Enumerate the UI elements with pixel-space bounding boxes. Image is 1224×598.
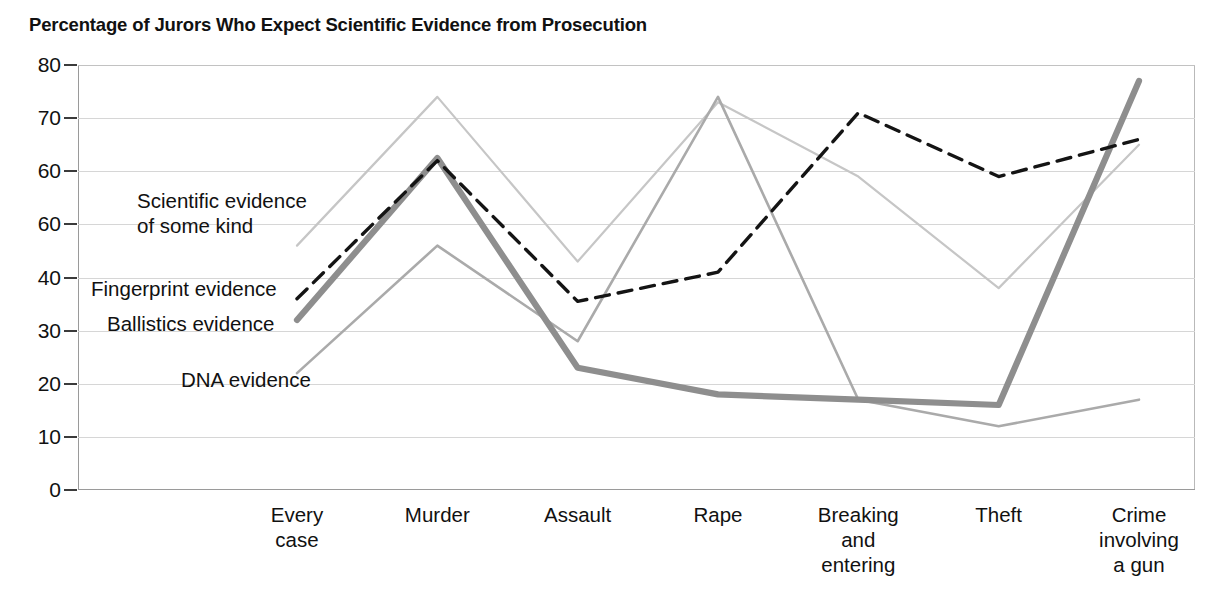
- x-axis-tick-label-line: Rape: [643, 502, 793, 527]
- x-axis-tick-label-line: entering: [783, 552, 933, 577]
- x-axis-tick-label-line: Every: [222, 502, 372, 527]
- x-axis-tick-label: Everycase: [222, 502, 372, 552]
- y-axis-tick-label: 70: [15, 106, 61, 130]
- x-axis-tick-label: Murder: [362, 502, 512, 527]
- gridline: [78, 118, 1195, 119]
- x-axis-tick-label: Assault: [503, 502, 653, 527]
- y-axis-tick-label: 60: [15, 159, 61, 183]
- x-axis-tick-label-line: Breaking: [783, 502, 933, 527]
- x-axis-tick-label: Breakingandentering: [783, 502, 933, 577]
- gridline: [78, 171, 1195, 172]
- x-axis-tick-label-line: Assault: [503, 502, 653, 527]
- y-axis-tick-label: 60: [15, 212, 61, 236]
- y-axis-tick-mark: [64, 489, 77, 491]
- y-axis-tick-mark: [64, 117, 77, 119]
- x-axis-tick-label-line: a gun: [1064, 552, 1214, 577]
- series-label-line: Ballistics evidence: [107, 311, 275, 336]
- chart-container: Percentage of Jurors Who Expect Scientif…: [0, 0, 1224, 598]
- x-axis-tick-label: Rape: [643, 502, 793, 527]
- y-axis-tick-mark: [64, 170, 77, 172]
- gridline: [78, 437, 1195, 438]
- y-axis-tick-label: 0: [15, 478, 61, 502]
- series-label-line: Fingerprint evidence: [91, 276, 277, 301]
- y-axis-tick-mark: [64, 223, 77, 225]
- series-label-ballistics-evidence: Ballistics evidence: [107, 311, 275, 336]
- series-label-line: Scientific evidence: [137, 188, 307, 213]
- y-axis-tick-label: 10: [15, 425, 61, 449]
- x-axis-tick-label: Crimeinvolvinga gun: [1064, 502, 1214, 577]
- series-label-line: of some kind: [137, 213, 307, 238]
- x-axis-tick-label-line: involving: [1064, 527, 1214, 552]
- x-axis-tick-label-line: case: [222, 527, 372, 552]
- series-label-scientific-evidence: Scientific evidenceof some kind: [137, 188, 307, 238]
- y-axis-tick-mark: [64, 383, 77, 385]
- x-axis-tick-label-line: and: [783, 527, 933, 552]
- x-axis-tick-label: Theft: [924, 502, 1074, 527]
- y-axis-tick-mark: [64, 64, 77, 66]
- series-label-dna-evidence: DNA evidence: [181, 367, 311, 392]
- y-axis-tick-mark: [64, 330, 77, 332]
- x-axis-tick-label-line: Theft: [924, 502, 1074, 527]
- axis-line-bottom: [78, 489, 1195, 490]
- y-axis-tick-label: 30: [15, 319, 61, 343]
- gridline: [78, 65, 1195, 66]
- chart-title: Percentage of Jurors Who Expect Scientif…: [29, 14, 647, 36]
- y-axis-tick-mark: [64, 277, 77, 279]
- series-label-line: DNA evidence: [181, 367, 311, 392]
- y-axis-tick-label: 80: [15, 53, 61, 77]
- series-label-fingerprint-evidence: Fingerprint evidence: [91, 276, 277, 301]
- y-axis-tick-mark: [64, 436, 77, 438]
- y-axis-tick-label: 20: [15, 372, 61, 396]
- x-axis-tick-label-line: Crime: [1064, 502, 1214, 527]
- y-axis-tick-label: 40: [15, 266, 61, 290]
- x-axis-tick-label-line: Murder: [362, 502, 512, 527]
